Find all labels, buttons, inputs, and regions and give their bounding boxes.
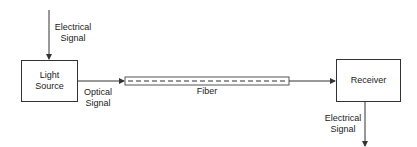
input-signal-label: Electrical Signal: [52, 22, 94, 44]
light-source-label: Light Source: [35, 70, 64, 92]
receiver-box: Receiver: [336, 59, 401, 102]
optical-signal-label: Optical Signal: [80, 87, 116, 109]
fiber-label: Fiber: [187, 86, 227, 97]
receiver-label: Receiver: [351, 75, 387, 86]
output-signal-label: Electrical Signal: [322, 113, 364, 135]
light-source-box: Light Source: [21, 60, 78, 102]
